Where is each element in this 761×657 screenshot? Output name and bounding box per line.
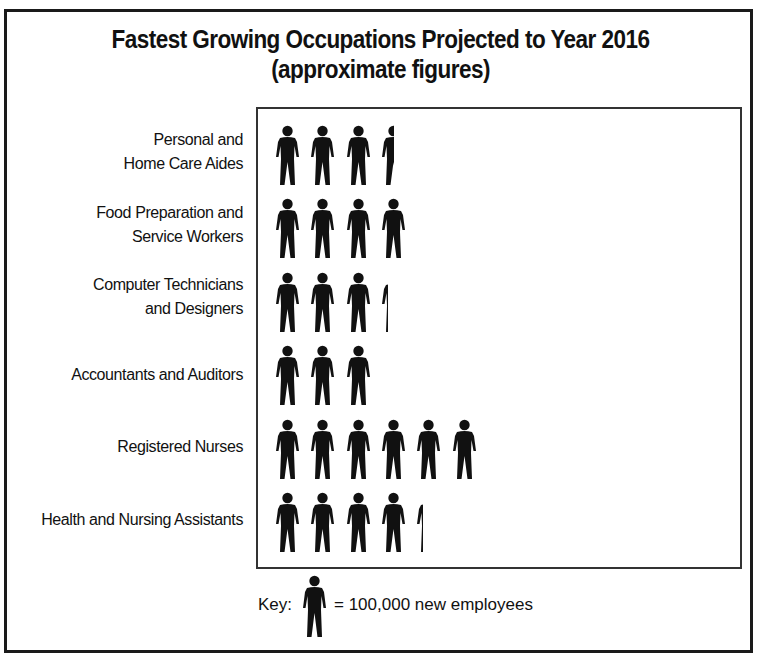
category-label: Food Preparation andService Workers [0,201,243,249]
person-icon [346,419,371,479]
category-label: Computer Techniciansand Designers [0,273,243,321]
chart-title-line1: Fastest Growing Occupations Projected to… [38,24,723,54]
person-icon [302,575,327,637]
person-icon [416,492,423,552]
person-icon [381,125,394,185]
category-label: Personal andHome Care Aides [0,128,243,176]
person-icon [346,125,371,185]
category-label-line2: and Designers [0,297,243,321]
person-icon [310,492,335,552]
category-label-line1: Computer Technicians [0,273,243,297]
person-icon [346,198,371,258]
person-icon [346,272,371,332]
chart-title: Fastest Growing Occupations Projected to… [38,24,723,84]
category-label-line1: Accountants and Auditors [0,363,243,387]
person-icon [275,272,300,332]
person-icon [310,272,335,332]
category-label: Health and Nursing Assistants [0,508,243,532]
category-label-line1: Health and Nursing Assistants [0,508,243,532]
category-label-line2: Home Care Aides [0,152,243,176]
person-icon [275,125,300,185]
person-icon [346,492,371,552]
key-label: Key: [258,595,292,615]
person-icon [346,345,371,405]
category-label: Registered Nurses [0,435,243,459]
person-icon [310,345,335,405]
person-icon [310,198,335,258]
person-icon [381,272,388,332]
person-icon [275,345,300,405]
chart-subtitle: (approximate figures) [38,54,723,84]
person-icon [310,125,335,185]
category-label: Accountants and Auditors [0,363,243,387]
person-icon [381,419,406,479]
person-icon [275,198,300,258]
category-label-line1: Registered Nurses [0,435,243,459]
person-icon [275,419,300,479]
key-text: = 100,000 new employees [334,595,533,615]
person-icon [416,419,441,479]
person-icon [381,198,406,258]
category-label-line2: Service Workers [0,225,243,249]
person-icon [310,419,335,479]
person-icon [452,419,477,479]
person-icon [381,492,406,552]
category-label-line1: Personal and [0,128,243,152]
category-label-line1: Food Preparation and [0,201,243,225]
person-icon [275,492,300,552]
